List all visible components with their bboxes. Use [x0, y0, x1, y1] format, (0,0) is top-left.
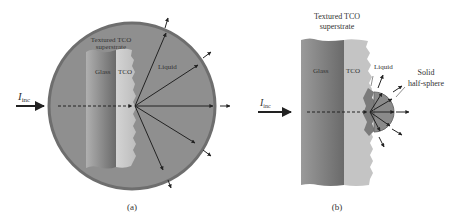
solid-label-line2: half-sphere [408, 79, 444, 88]
incident-label: Iinc [259, 97, 271, 109]
caption-a: (a) [127, 202, 137, 212]
liquid-label: Liquid [374, 63, 393, 71]
diagram-canvas: Textured TCO superstrate Glass TCO Liqui… [0, 0, 463, 219]
panel-a: Textured TCO superstrate Glass TCO Liqui… [16, 18, 230, 212]
liquid-label: Liquid [158, 63, 177, 71]
tco-label: TCO [346, 67, 360, 75]
glass-label: Glass [95, 68, 111, 76]
panel-b: Textured TCO superstrate Glass TCO Liqui… [258, 12, 444, 212]
caption-b: (b) [332, 202, 343, 212]
superstrate-title-line1: Textured TCO [314, 12, 360, 21]
superstrate-title-line2: superstrate [96, 43, 126, 51]
superstrate-title-line2: superstrate [320, 22, 355, 31]
tco-label: TCO [118, 68, 132, 76]
solid-label-line1: Solid [418, 68, 435, 77]
glass-label: Glass [313, 67, 329, 75]
incident-label: Iinc [17, 90, 30, 104]
